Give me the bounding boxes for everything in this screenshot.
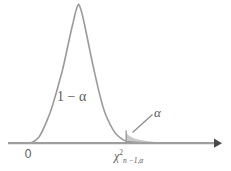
chi-square-figure: 1 − α α 0 χ2n −1,α [0,0,231,171]
density-curve [29,4,209,143]
svg-text:χ2n −1,α: χ2n −1,α [113,148,144,165]
alpha-tail-label: α [154,105,162,120]
chi-square-distribution-plot: 1 − α α 0 χ2n −1,α [0,0,231,171]
x-axis-arrow-icon [214,139,222,148]
rejection-region-shading [126,133,205,143]
origin-tick-label: 0 [25,147,32,161]
critical-subscript: n −1,α [123,156,144,165]
critical-value-tick-label: χ2n −1,α [113,148,144,165]
alpha-leader-line [133,115,153,133]
one-minus-alpha-label: 1 − α [57,89,87,104]
